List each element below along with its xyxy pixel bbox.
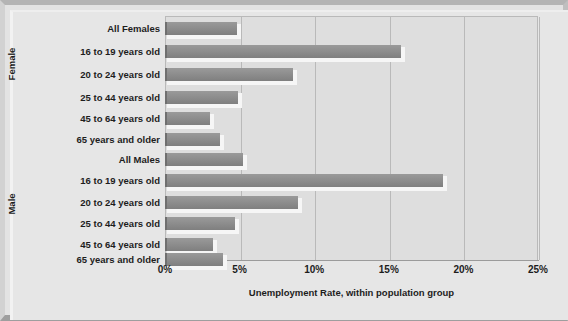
x-tick-5%: 5% (220, 264, 260, 275)
x-tick-0%: 0% (145, 264, 185, 275)
x-tick-20%: 20% (443, 264, 483, 275)
x-tick-10%: 10% (294, 264, 334, 275)
x-tick-labels: 0%5%10%15%20%25% (0, 0, 568, 321)
x-axis-title: Unemployment Rate, within population gro… (165, 287, 538, 298)
unemployment-rate-bar-chart: Female Male All Females16 to 19 years ol… (0, 0, 568, 321)
x-tick-15%: 15% (369, 264, 409, 275)
x-tick-25%: 25% (518, 264, 558, 275)
